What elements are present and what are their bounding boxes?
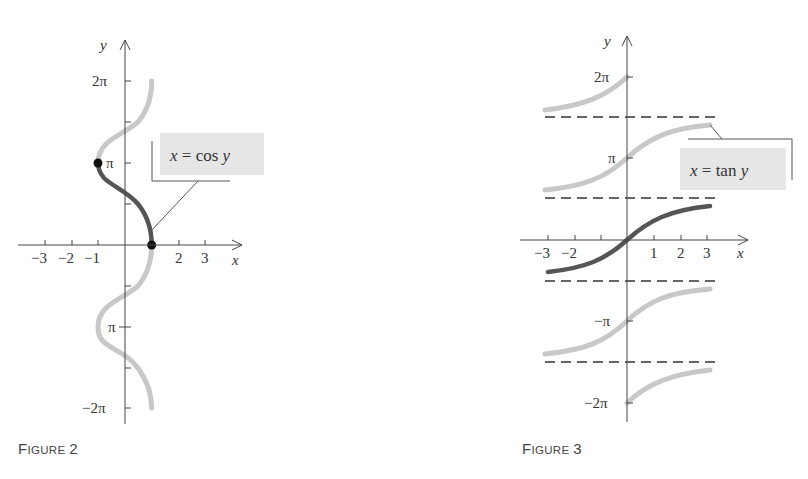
figure-3-caption: FIGURE 3 (522, 440, 582, 457)
x-tick-2: 2 (677, 245, 685, 261)
y-tick-pi: π (106, 155, 114, 171)
x-tick-3: 3 (201, 250, 209, 266)
x-tick-neg1: −1 (84, 250, 100, 266)
y-tick-neg-2pi: −2π (82, 400, 106, 416)
x-tick-neg3: −3 (534, 245, 550, 261)
x-tick-1: 1 (650, 245, 658, 261)
x-tick-neg3: −3 (31, 250, 47, 266)
leader-line (150, 181, 198, 232)
figure-3: y x 2π π −π −2π −3 −2 1 2 3 x = tan y (520, 33, 792, 422)
y-tick-2pi: 2π (594, 69, 610, 85)
y-tick-neg-pi: π (108, 319, 116, 335)
equation-label: x = cos y (169, 146, 231, 165)
y-tick-neg-pi: −π (594, 313, 610, 329)
y-tick-pi: π (608, 150, 616, 166)
x-axis-label: x (231, 252, 239, 268)
y-tick-2pi: 2π (92, 73, 108, 89)
figure-2: y x 2π π π −2π −3 −2 −1 2 3 x = cos y (18, 37, 264, 424)
y-axis-label: y (98, 37, 107, 53)
y-axis-label: y (602, 33, 611, 49)
y-tick-neg-2pi: −2π (584, 395, 608, 411)
leader-line (710, 125, 722, 139)
figure-2-caption: FIGURE 2 (18, 440, 78, 457)
x-tick-neg2: −2 (58, 250, 74, 266)
x-tick-neg2: −2 (561, 245, 577, 261)
equation-label: x = tan y (689, 161, 749, 180)
x-tick-3: 3 (703, 245, 711, 261)
x-tick-2: 2 (175, 250, 183, 266)
tan-curve-highlight (548, 206, 710, 272)
x-axis-label: x (736, 245, 744, 261)
endpoint-dot (94, 159, 103, 168)
figure-canvas: y x 2π π π −2π −3 −2 −1 2 3 x = cos y (0, 0, 808, 479)
